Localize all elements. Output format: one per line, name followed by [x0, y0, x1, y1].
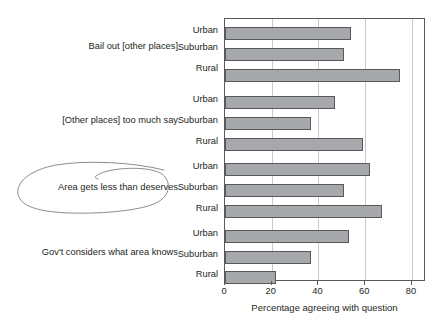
plot-area: [224, 18, 425, 281]
x-tick-mark-40: [317, 281, 318, 285]
cat-label-g0-urban: Urban: [193, 25, 218, 35]
x-axis-title: Percentage agreeing with question: [224, 302, 425, 313]
bar-gov-t-considers-what-area-knows-suburban: [225, 251, 311, 264]
cat-label-g1-rural: Rural: [196, 136, 218, 146]
bar-other-places-too-much-say-suburban: [225, 117, 311, 130]
cat-label-g3-suburban: Suburban: [178, 249, 218, 259]
bar-bail-out-other-places-suburban: [225, 48, 344, 61]
cat-label-g2-urban: Urban: [193, 161, 218, 171]
bar-area-gets-less-than-deserves-suburban: [225, 184, 344, 197]
cat-label-g1-suburban: Suburban: [178, 115, 218, 125]
cat-label-g3-rural: Rural: [196, 269, 218, 279]
bar-gov-t-considers-what-area-knows-urban: [225, 230, 349, 243]
category-label-column: Urban Suburban Rural Urban Suburban Rura…: [150, 0, 218, 328]
x-tick-label-0: 0: [221, 286, 226, 297]
bar-area-gets-less-than-deserves-urban: [225, 163, 370, 176]
bar-bail-out-other-places-urban: [225, 27, 351, 40]
cat-label-g0-suburban: Suburban: [178, 42, 218, 52]
cat-label-g2-suburban: Suburban: [178, 182, 218, 192]
x-tick-label-20: 20: [266, 286, 276, 297]
x-tick-mark-60: [364, 281, 365, 285]
bar-bail-out-other-places-rural: [225, 69, 400, 82]
cat-label-g1-urban: Urban: [193, 94, 218, 104]
gridline-60: [365, 19, 366, 280]
cat-label-g2-rural: Rural: [196, 203, 218, 213]
x-tick-mark-0: [224, 281, 225, 285]
bar-chart: Bail out [other places] [Other places] t…: [0, 0, 446, 328]
gridline-80: [412, 19, 413, 280]
x-tick-label-40: 40: [312, 286, 322, 297]
x-tick-mark-20: [271, 281, 272, 285]
cat-label-g3-urban: Urban: [193, 228, 218, 238]
x-tick-label-80: 80: [406, 286, 416, 297]
bar-other-places-too-much-say-rural: [225, 138, 363, 151]
cat-label-g0-rural: Rural: [196, 63, 218, 73]
bar-area-gets-less-than-deserves-rural: [225, 205, 382, 218]
x-tick-mark-80: [411, 281, 412, 285]
x-tick-label-60: 60: [359, 286, 369, 297]
bar-other-places-too-much-say-urban: [225, 96, 335, 109]
